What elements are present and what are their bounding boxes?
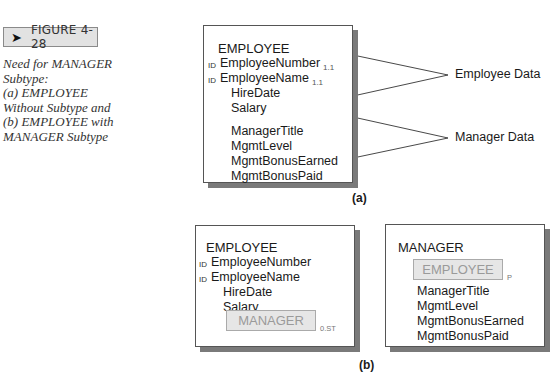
attribute: HireDate (223, 285, 272, 300)
entity-title: MANAGER (398, 240, 464, 255)
id-marker: ID (199, 275, 207, 284)
attribute: MgmtLevel (231, 139, 292, 154)
manager-subtype-box[interactable]: MANAGER (226, 310, 316, 331)
attribute: EmployeeName (211, 270, 300, 285)
manager-data-label: Manager Data (455, 130, 534, 144)
attribute: ManagerTitle (231, 124, 304, 139)
id-marker: ID (208, 61, 216, 70)
attribute: HireDate (231, 86, 280, 101)
entity-title: EMPLOYEE (218, 41, 290, 56)
subtype-cardinality: 0.ST (320, 324, 336, 333)
supertype-cardinality: P (507, 273, 512, 282)
attribute: EmployeeNumber (211, 255, 311, 270)
employee-entity-a[interactable]: EMPLOYEE ID EmployeeNumber1.1 ID Employe… (203, 25, 353, 183)
employee-entity-b[interactable]: EMPLOYEE ID EmployeeNumber ID EmployeeNa… (195, 225, 355, 347)
attribute: Salary (231, 101, 266, 116)
attribute: MgmtLevel (417, 299, 478, 314)
attribute: MgmtBonusPaid (231, 169, 323, 184)
id-marker: ID (208, 76, 216, 85)
employee-supertype-box[interactable]: EMPLOYEE (413, 259, 503, 280)
manager-entity-b[interactable]: MANAGER EMPLOYEE P ManagerTitle MgmtLeve… (385, 224, 545, 347)
attribute: ManagerTitle (417, 284, 490, 299)
attribute: MgmtBonusEarned (417, 314, 524, 329)
attribute: MgmtBonusPaid (417, 329, 509, 344)
entity-title: EMPLOYEE (206, 240, 278, 255)
part-a-label: (a) (352, 191, 367, 205)
part-b-label: (b) (359, 358, 374, 372)
id-marker: ID (199, 260, 207, 269)
attribute: MgmtBonusEarned (231, 154, 338, 169)
employee-data-label: Employee Data (455, 67, 540, 81)
